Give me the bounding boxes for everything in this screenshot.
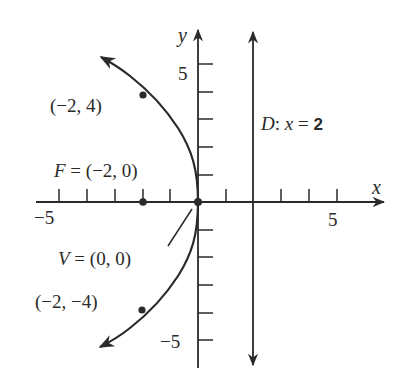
lower-point-dot bbox=[138, 306, 145, 313]
upper-point-dot bbox=[139, 91, 146, 98]
vertex-label: V = (0, 0) bbox=[58, 248, 131, 270]
parabola-diagram: y x 5 −5 −5 5 (−2, 4) (−2, −4) F = (−2, … bbox=[0, 0, 400, 386]
upper-point-label: (−2, 4) bbox=[50, 95, 102, 117]
x-tick-label-neg5: −5 bbox=[34, 207, 54, 228]
x-axis-label: x bbox=[371, 176, 381, 198]
x-tick-label-5: 5 bbox=[328, 209, 338, 230]
vertex-pointer-line bbox=[168, 209, 192, 246]
y-tick-label-5: 5 bbox=[178, 63, 188, 84]
vertex-dot bbox=[194, 198, 202, 206]
focus-label: F = (−2, 0) bbox=[53, 160, 138, 182]
lower-point-label: (−2, −4) bbox=[35, 291, 98, 313]
y-axis-label: y bbox=[176, 24, 187, 47]
y-tick-label-neg5: −5 bbox=[160, 331, 180, 352]
directrix-label: D: x = 2 bbox=[260, 113, 323, 134]
focus-dot bbox=[139, 198, 147, 206]
